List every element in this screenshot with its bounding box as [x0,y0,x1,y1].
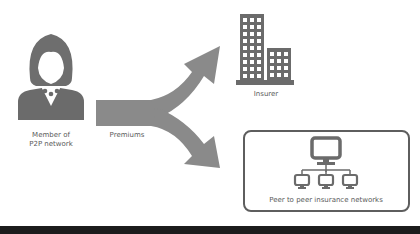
member-label-line2: P2P network [14,140,88,149]
member-label: Member of P2P network [14,131,88,149]
woman-avatar-icon [16,30,86,120]
p2p-network-box: Peer to peer insurance networks [243,130,410,212]
p2p-insurance-diagram: Member of P2P network Premiums [0,0,420,234]
bottom-border-band [0,226,420,234]
computer-network-icon [290,136,362,192]
p2p-label: Peer to peer insurance networks [245,196,407,205]
office-buildings-icon [236,12,296,86]
premiums-label: Premiums [104,131,150,140]
member-label-line1: Member of [14,131,88,140]
insurer-label: Insurer [244,90,288,99]
split-arrow-icon [96,40,236,170]
